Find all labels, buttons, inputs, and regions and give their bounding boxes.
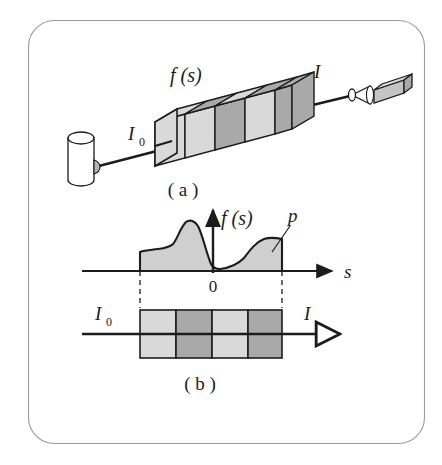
label-f-of-s-a: f (s) bbox=[170, 64, 202, 87]
figure-root: f (s) I 0 I ( a ) bbox=[0, 0, 442, 465]
label-f-of-s-b: f (s) bbox=[221, 207, 253, 230]
label-peak-p: p bbox=[286, 205, 298, 226]
caption-b: ( b ) bbox=[184, 373, 216, 395]
block-side-cell-2 bbox=[185, 106, 215, 158]
block-side-cell-3 bbox=[215, 98, 245, 150]
svg-text:0: 0 bbox=[106, 315, 112, 329]
figure-frame bbox=[29, 21, 425, 444]
block-side-cell-4 bbox=[245, 90, 275, 142]
label-s-axis: s bbox=[344, 261, 351, 282]
block-side-cell-5 bbox=[275, 85, 292, 134]
detector-aperture bbox=[349, 89, 356, 101]
label-origin: 0 bbox=[209, 277, 218, 296]
figure-svg: f (s) I 0 I ( a ) bbox=[0, 0, 442, 465]
svg-text:0: 0 bbox=[139, 135, 145, 149]
detector-cone-base bbox=[367, 86, 374, 104]
caption-a: ( a ) bbox=[168, 179, 199, 201]
